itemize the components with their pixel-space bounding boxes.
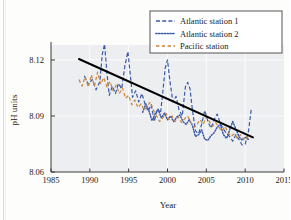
legend-label-2: Pacific station xyxy=(180,41,229,51)
y-tick-label: 8.09 xyxy=(29,111,44,121)
scan-artifact-line-2 xyxy=(5,0,6,220)
x-tick-label: 2010 xyxy=(237,175,254,185)
x-tick-label: 2005 xyxy=(198,175,215,185)
x-axis-title: Year xyxy=(160,200,177,210)
legend-label-1: Atlantic station 2 xyxy=(180,29,239,39)
scan-artifact-line xyxy=(3,0,4,220)
x-tick-label: 1985 xyxy=(43,175,60,185)
x-tick-label: 2015 xyxy=(276,175,291,185)
legend-label-0: Atlantic station 1 xyxy=(180,16,239,26)
x-tick-label: 1995 xyxy=(120,175,137,185)
x-tick-label: 1990 xyxy=(81,175,98,185)
y-tick-label: 8.12 xyxy=(29,55,44,65)
legend-box[interactable]: Atlantic station 1Atlantic station 2Paci… xyxy=(150,11,282,53)
figure-container: 19851990199520002005201020158.128.098.06… xyxy=(0,0,290,220)
y-tick-label: 8.06 xyxy=(29,167,44,177)
ph-trend-line-chart: 19851990199520002005201020158.128.098.06… xyxy=(0,0,290,220)
x-tick-label: 2000 xyxy=(159,175,176,185)
y-axis-title: pH units xyxy=(9,94,19,125)
